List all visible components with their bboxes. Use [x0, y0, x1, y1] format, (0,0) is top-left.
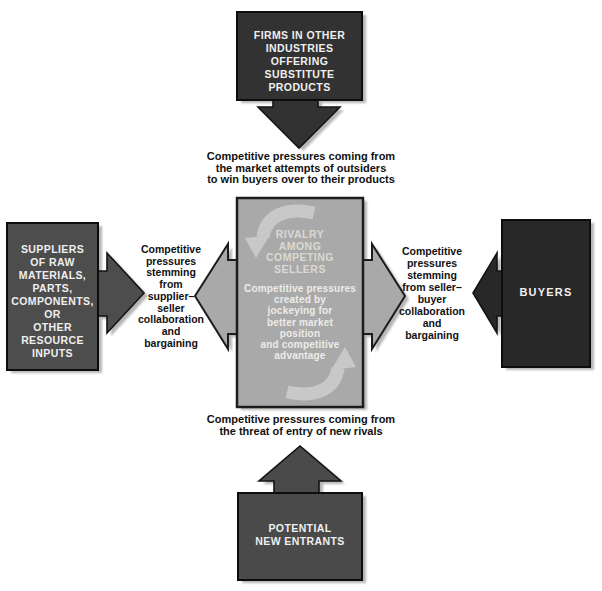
caption-buyers-pressure: Competitive pressures stemming from sell…	[388, 245, 476, 341]
caption-substitutes-pressure: Competitive pressures coming from the ma…	[170, 151, 432, 186]
caption-suppliers-pressure: Competitive pressures stemming from supp…	[128, 244, 214, 349]
buyers-pressure-arrow-icon	[473, 253, 502, 333]
caption-entrants-pressure: Competitive pressures coming from the th…	[170, 414, 432, 437]
entrants-pressure-arrow-icon	[259, 446, 341, 493]
buyers-box-label: BUYERS	[502, 286, 590, 299]
rivalry-title: RIVALRY AMONG COMPETING SELLERS	[239, 229, 361, 275]
entrants-box-label: POTENTIAL NEW ENTRANTS	[238, 522, 362, 548]
rivalry-description: Competitive pressures created by jockeyi…	[237, 283, 363, 361]
suppliers-box-label: SUPPLIERS OF RAW MATERIALS, PARTS, COMPO…	[7, 243, 98, 360]
five-forces-diagram: FIRMS IN OTHER INDUSTRIES OFFERING SUBST…	[0, 0, 602, 591]
substitutes-box-label: FIRMS IN OTHER INDUSTRIES OFFERING SUBST…	[237, 29, 362, 94]
entrants-shape	[238, 446, 366, 583]
